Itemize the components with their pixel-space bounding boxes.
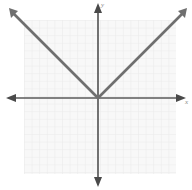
y-axis-label: y [100,1,105,9]
absolute-value-graph-figure: y x [0,0,192,190]
x-axis-label: x [184,98,189,106]
coordinate-plane-svg: y x [0,0,192,190]
